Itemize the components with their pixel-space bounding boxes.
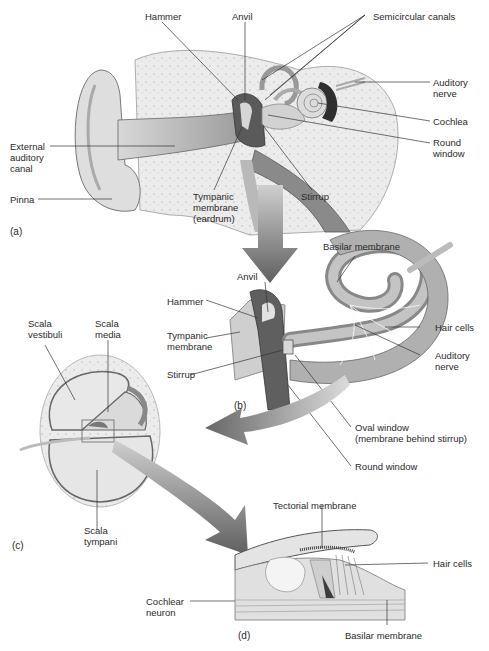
panel-d-artwork (235, 530, 405, 620)
label-anvil-b: Anvil (237, 271, 258, 282)
label-tympanic-membrane-a: Tympanic membrane (eardrum) (193, 191, 238, 224)
ear-anatomy-diagram: Hammer Anvil Semicircular canals Auditor… (0, 0, 489, 651)
label-stirrup-a: Stirrup (301, 191, 329, 202)
label-tympanic-membrane-b: Tympanic membrane (167, 330, 212, 352)
arrow-c-to-d (112, 440, 248, 555)
label-cochlea: Cochlea (433, 116, 468, 127)
label-round-window-b: Round window (355, 461, 417, 472)
panel-tag-c: (c) (12, 540, 24, 551)
label-scala-media: Scala media (95, 318, 121, 340)
label-hair-cells-d: Hair cells (433, 558, 472, 569)
diagram-artwork (0, 0, 489, 651)
label-anvil: Anvil (232, 11, 253, 22)
label-hammer-b: Hammer (167, 296, 203, 307)
label-cochlear-neuron: Cochlear neuron (146, 596, 184, 618)
label-basilar-membrane-d: Basilar membrane (345, 630, 422, 641)
label-stirrup-b: Stirrup (167, 369, 195, 380)
label-external-auditory-canal: External auditory canal (10, 141, 45, 174)
label-basilar-membrane-b: Basilar membrane (323, 241, 400, 252)
panel-tag-d: (d) (238, 630, 250, 641)
label-auditory-nerve: Auditory nerve (433, 77, 468, 99)
label-oval-window: Oval window (membrane behind stirrup) (355, 422, 467, 444)
panel-c-artwork (20, 355, 160, 507)
label-pinna: Pinna (10, 194, 34, 205)
label-scala-tympani: Scala tympani (84, 525, 117, 547)
label-semicircular-canals: Semicircular canals (373, 11, 455, 22)
panel-tag-b: (b) (234, 400, 246, 411)
label-hammer: Hammer (145, 11, 181, 22)
label-round-window-a: Round window (433, 137, 465, 159)
label-tectorial-membrane: Tectorial membrane (273, 500, 356, 511)
panel-tag-a: (a) (10, 226, 22, 237)
label-hair-cells-b: Hair cells (435, 322, 474, 333)
label-auditory-nerve-b: Auditory nerve (435, 350, 470, 372)
label-scala-vestibuli: Scala vestibuli (28, 318, 62, 340)
